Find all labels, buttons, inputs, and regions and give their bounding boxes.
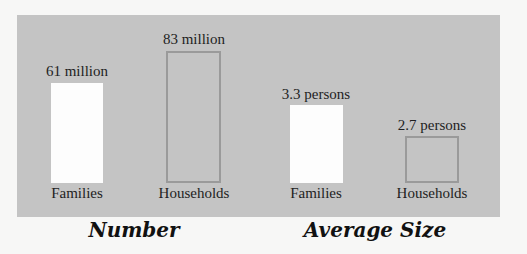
average-size-group-title: Average Size [304, 218, 446, 242]
families-number-value-label: 61 million [46, 63, 108, 80]
families-size-bar [290, 105, 343, 183]
households-size-category-label: Households [397, 185, 468, 202]
families-number-category-label: Families [51, 185, 103, 202]
households-number-bar [166, 51, 221, 183]
families-size-category-label: Families [290, 185, 342, 202]
households-size-value-label: 2.7 persons [398, 117, 466, 134]
families-number-bar [51, 83, 103, 183]
families-size-value-label: 3.3 persons [282, 86, 350, 103]
households-size-bar [405, 136, 459, 183]
households-number-category-label: Households [159, 185, 230, 202]
households-number-value-label: 83 million [163, 31, 225, 48]
number-group-title: Number [88, 218, 179, 242]
